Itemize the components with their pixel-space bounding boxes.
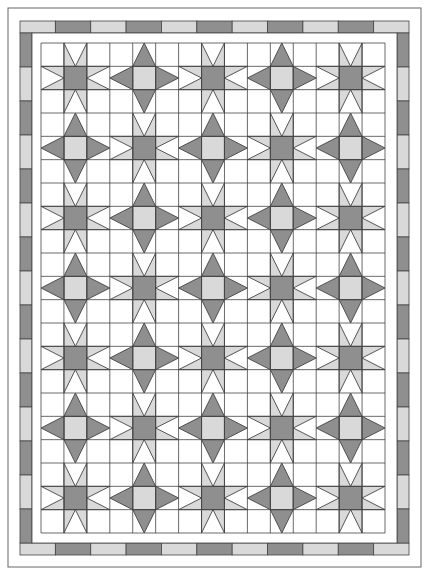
border-segment-bottom (55, 543, 90, 555)
star-b-center (133, 206, 156, 229)
quilt-svg (0, 0, 429, 575)
star-a-center (270, 136, 293, 159)
star-b-center (133, 346, 156, 369)
star-b-center (133, 486, 156, 509)
border-segment-right (397, 373, 409, 407)
border-segment-left (20, 203, 32, 237)
border-segment-left (20, 237, 32, 271)
border-segment-left (20, 373, 32, 407)
star-a-center (339, 486, 362, 509)
border-segment-right (397, 169, 409, 203)
star-a-center (202, 66, 225, 89)
star-b-center (270, 206, 293, 229)
border-segment-right (397, 33, 409, 67)
border-segment-bottom (338, 543, 373, 555)
star-b-center (270, 486, 293, 509)
border-segment-top (232, 21, 267, 33)
border-segment-right (397, 509, 409, 543)
border-segment-bottom (20, 543, 55, 555)
border-segment-right (397, 101, 409, 135)
star-a-center (339, 206, 362, 229)
star-a-center (133, 136, 156, 159)
star-b-center (202, 136, 225, 159)
border-segment-right (397, 67, 409, 101)
star-a-center (133, 416, 156, 439)
border-segment-bottom (161, 543, 196, 555)
border-segment-right (397, 339, 409, 373)
star-b-center (64, 276, 87, 299)
star-b-center (64, 416, 87, 439)
border-segment-bottom (197, 543, 232, 555)
star-b-center (270, 66, 293, 89)
star-a-center (202, 346, 225, 369)
star-b-center (270, 346, 293, 369)
border-segment-left (20, 101, 32, 135)
star-b-center (202, 276, 225, 299)
star-b-center (133, 66, 156, 89)
star-a-center (339, 66, 362, 89)
star-a-center (270, 276, 293, 299)
border-segment-right (397, 271, 409, 305)
border-segment-top (20, 21, 55, 33)
star-a-center (64, 486, 87, 509)
star-a-center (202, 486, 225, 509)
border-segment-right (397, 237, 409, 271)
border-segment-left (20, 67, 32, 101)
border-segment-right (397, 305, 409, 339)
star-a-center (64, 346, 87, 369)
border-segment-left (20, 169, 32, 203)
border-segment-top (91, 21, 126, 33)
star-a-center (270, 416, 293, 439)
border-segment-top (268, 21, 303, 33)
star-b-center (64, 136, 87, 159)
star-b-center (339, 136, 362, 159)
star-a-center (339, 346, 362, 369)
border-segment-right (397, 135, 409, 169)
border-segment-right (397, 441, 409, 475)
star-a-center (202, 206, 225, 229)
star-a-center (64, 66, 87, 89)
border-segment-left (20, 33, 32, 67)
border-segment-right (397, 203, 409, 237)
border-segment-left (20, 305, 32, 339)
border-segment-right (397, 475, 409, 509)
border-segment-bottom (232, 543, 267, 555)
border-segment-left (20, 271, 32, 305)
quilt-diagram (0, 0, 429, 575)
star-b-center (202, 416, 225, 439)
border-segment-bottom (268, 543, 303, 555)
border-segment-bottom (374, 543, 409, 555)
border-segment-top (126, 21, 161, 33)
border-segment-bottom (91, 543, 126, 555)
star-b-center (339, 276, 362, 299)
star-a-center (64, 206, 87, 229)
border-segment-top (197, 21, 232, 33)
border-segment-left (20, 509, 32, 543)
star-a-center (133, 276, 156, 299)
border-segment-left (20, 441, 32, 475)
border-segment-top (55, 21, 90, 33)
border-segment-left (20, 339, 32, 373)
border-segment-top (374, 21, 409, 33)
star-b-center (339, 416, 362, 439)
border-segment-bottom (126, 543, 161, 555)
border-segment-top (338, 21, 373, 33)
border-segment-top (303, 21, 338, 33)
border-segment-top (161, 21, 196, 33)
block-grid (41, 43, 385, 533)
border-segment-left (20, 407, 32, 441)
border-segment-left (20, 475, 32, 509)
border-segment-left (20, 135, 32, 169)
border-segment-right (397, 407, 409, 441)
border-segment-bottom (303, 543, 338, 555)
